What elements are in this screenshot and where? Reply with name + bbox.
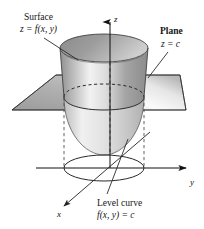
plane-label-equation: z = c — [161, 39, 180, 50]
top-rim-opening — [60, 34, 148, 62]
level-curve-label-title: Level curve — [97, 198, 142, 209]
surface-label-title: Surface — [24, 12, 53, 23]
paraboloid-upper-wall — [60, 34, 148, 110]
x-axis-label: x — [57, 209, 61, 219]
plane-leader-line — [148, 52, 168, 78]
surface-label-equation: z = f(x, y) — [20, 24, 57, 35]
level-curve-label-equation: f(x, y) = c — [97, 210, 135, 221]
y-axis-label: y — [190, 177, 194, 187]
z-axis-label: z — [114, 14, 118, 24]
plane-label-title: Plane — [160, 26, 183, 37]
